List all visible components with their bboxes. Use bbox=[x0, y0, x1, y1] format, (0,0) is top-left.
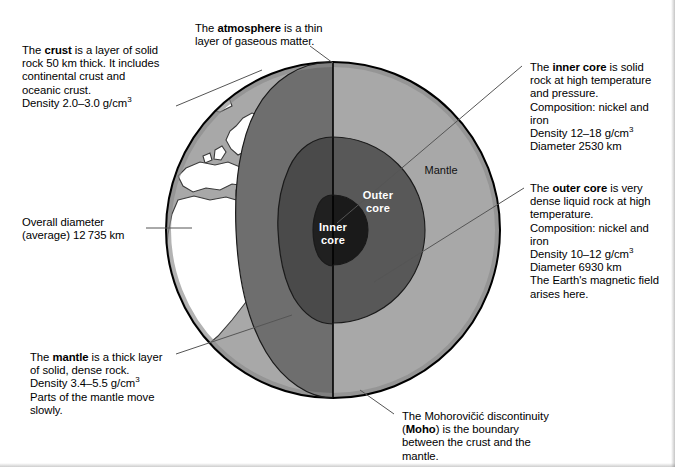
callout-line: continental crust and bbox=[22, 70, 212, 83]
atmosphere-leader-line bbox=[310, 46, 333, 63]
callout-line: The mantle is a thick layer bbox=[30, 351, 195, 364]
earth-structure-diagram: Mantle Outer core Inner core The crust i… bbox=[0, 0, 675, 467]
callout-line: and pressure. bbox=[530, 87, 675, 100]
callout-line: The inner core is solid bbox=[530, 61, 675, 74]
callout-crust: The crust is a layer of solidrock 50 km … bbox=[22, 44, 212, 110]
page-bottom-edge bbox=[0, 463, 675, 467]
callout-line: Density 3.4–5.5 g/cm3 bbox=[30, 377, 195, 390]
callout-line: rock at high temperature bbox=[530, 74, 675, 87]
callout-line: layer of gaseous matter. bbox=[195, 35, 375, 48]
callout-line: Composition: nickel and bbox=[530, 222, 675, 235]
callout-overall-diameter: Overall diameter(average) 12 735 km bbox=[22, 216, 172, 242]
callout-line: The crust is a layer of solid bbox=[22, 44, 212, 57]
callout-line: dense liquid rock at high bbox=[530, 195, 675, 208]
label-outer-core-text: Outer core bbox=[363, 189, 393, 214]
callout-line: rock 50 km thick. It includes bbox=[22, 57, 212, 70]
callout-line: mantle. bbox=[402, 450, 582, 463]
label-outer-core: Outer core bbox=[349, 189, 407, 214]
callout-line: Diameter 6930 km bbox=[530, 261, 675, 274]
callout-moho: The Mohorovičić discontinuity(Moho) is t… bbox=[402, 410, 582, 463]
callout-line: The atmosphere is a thin bbox=[195, 22, 375, 35]
callout-line: iron bbox=[530, 235, 675, 248]
callout-line: Overall diameter bbox=[22, 216, 172, 229]
callout-line: Density 12–18 g/cm3 bbox=[530, 127, 675, 140]
callout-line: Density 10–12 g/cm3 bbox=[530, 248, 675, 261]
callout-line: Diameter 2530 km bbox=[530, 140, 675, 153]
callout-line: between the crust and the bbox=[402, 436, 582, 449]
callout-line: Composition: nickel and bbox=[530, 101, 675, 114]
callout-line: slowly. bbox=[30, 404, 195, 417]
callout-line: Parts of the mantle move bbox=[30, 391, 195, 404]
callout-line: The outer core is very bbox=[530, 182, 675, 195]
callout-outer-core: The outer core is verydense liquid rock … bbox=[530, 182, 675, 301]
island-iceland bbox=[180, 119, 193, 129]
callout-inner-core: The inner core is solidrock at high temp… bbox=[530, 61, 675, 153]
callout-line: The Mohorovičić discontinuity bbox=[402, 410, 582, 423]
callout-atmosphere: The atmosphere is a thinlayer of gaseous… bbox=[195, 22, 375, 48]
callout-line: temperature. bbox=[530, 208, 675, 221]
callout-line: (Moho) is the boundary bbox=[402, 423, 582, 436]
page-right-edge bbox=[671, 0, 675, 467]
callout-mantle: The mantle is a thick layerof solid, den… bbox=[30, 351, 195, 417]
callout-line: The Earth's magnetic field bbox=[530, 274, 675, 287]
label-mantle: Mantle bbox=[413, 164, 469, 177]
label-inner-core-text: Inner core bbox=[319, 221, 347, 246]
callout-line: of solid, dense rock. bbox=[30, 364, 195, 377]
callout-line: Density 2.0–3.0 g/cm3 bbox=[22, 97, 212, 110]
label-inner-core: Inner core bbox=[305, 221, 361, 246]
moho-leader-line bbox=[360, 390, 394, 414]
callout-line: iron bbox=[530, 114, 675, 127]
callout-line: (average) 12 735 km bbox=[22, 229, 172, 242]
callout-line: oceanic crust. bbox=[22, 84, 212, 97]
callout-line: arises here. bbox=[530, 288, 675, 301]
label-mantle-text: Mantle bbox=[424, 164, 457, 176]
